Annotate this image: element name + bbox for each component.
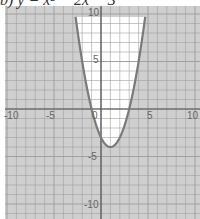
tick-x-10: 10 — [187, 110, 199, 121]
tick-y-5: 5 — [93, 54, 99, 65]
tick-x-5: 5 — [147, 110, 153, 121]
graph-plot: -10 -5 0 5 10 10 5 -5 -10 — [0, 0, 200, 219]
tick-y--5: -5 — [88, 151, 97, 162]
tick-x--5: -5 — [46, 110, 55, 121]
tick-x--10: -10 — [4, 110, 19, 121]
graph-title: b) y = x² − 2x − 3 — [0, 0, 116, 9]
tick-x-0: 0 — [92, 110, 98, 121]
tick-y--10: -10 — [84, 199, 99, 210]
